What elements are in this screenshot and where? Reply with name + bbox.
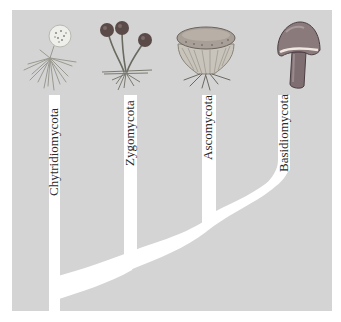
taxon-label-zygomycota: Zygomycota: [124, 100, 136, 166]
basidiomycota-illustration-icon: [274, 18, 330, 92]
branch-main-spine: [58, 150, 290, 290]
zygomycota-illustration-icon: [96, 20, 156, 92]
branch-zygo-to-clade: [130, 218, 212, 270]
taxon-label-chytridiomycota: Chytridiomycota: [48, 108, 60, 196]
taxon-label-ascomycota: Ascomycota: [202, 95, 214, 160]
chytrid-illustration-icon: [20, 22, 86, 92]
taxon-label-basidiomycota: Basidiomycota: [278, 94, 290, 172]
ascomycota-illustration-icon: [172, 22, 240, 94]
branch-asco-basidio: [206, 182, 276, 232]
